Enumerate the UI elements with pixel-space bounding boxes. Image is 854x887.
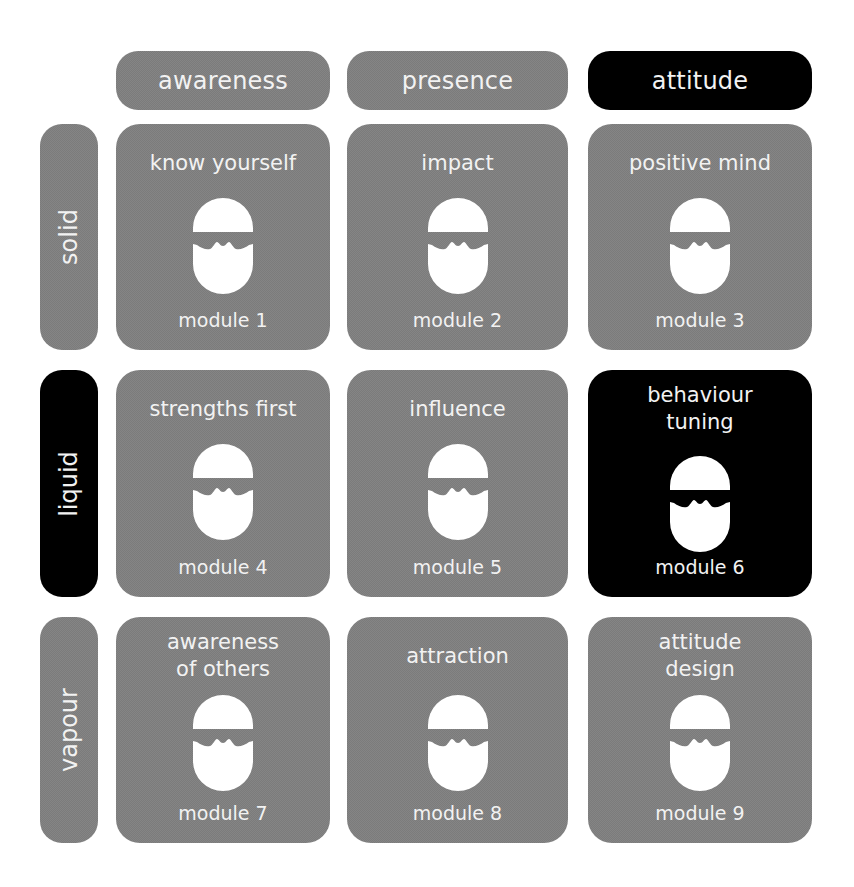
sunglasses-face-icon [670,695,730,791]
sunglasses-face-icon [670,198,730,294]
row-header-label: vapour [55,688,83,772]
row-header-label: liquid [55,451,83,517]
sunglasses-face-icon [428,198,488,294]
column-header-label: awareness [158,67,288,95]
sunglasses-face-icon [193,695,253,791]
row-header-solid: solid [40,124,98,350]
module-card-5[interactable]: influence module 5 [347,370,568,597]
module-card-8[interactable]: attraction module 8 [347,617,568,843]
module-title: strengths first [116,396,330,423]
module-label: module 8 [347,801,568,825]
column-header-label: presence [402,67,513,95]
module-label: module 6 [588,555,812,579]
module-title: influence [347,396,568,423]
module-title: behaviour tuning [588,382,812,436]
sunglasses-face-icon [193,198,253,294]
module-title: awareness of others [116,629,330,683]
sunglasses-face-icon [428,444,488,540]
module-card-7[interactable]: awareness of others module 7 [116,617,330,843]
module-title: attitude design [588,629,812,683]
module-card-6[interactable]: behaviour tuning module 6 [588,370,812,597]
module-label: module 2 [347,308,568,332]
module-label: module 3 [588,308,812,332]
module-label: module 7 [116,801,330,825]
module-title: attraction [347,643,568,670]
sunglasses-face-icon [670,456,730,552]
column-header-attitude: attitude [588,51,812,110]
module-card-1[interactable]: know yourself module 1 [116,124,330,350]
row-header-vapour: vapour [40,617,98,843]
module-title: impact [347,150,568,177]
module-label: module 4 [116,555,330,579]
module-label: module 9 [588,801,812,825]
module-label: module 5 [347,555,568,579]
module-card-2[interactable]: impact module 2 [347,124,568,350]
column-header-presence: presence [347,51,568,110]
module-card-9[interactable]: attitude design module 9 [588,617,812,843]
module-title: positive mind [588,150,812,177]
column-header-awareness: awareness [116,51,330,110]
column-header-label: attitude [652,67,748,95]
module-label: module 1 [116,308,330,332]
sunglasses-face-icon [428,695,488,791]
module-title: know yourself [116,150,330,177]
row-header-label: solid [55,209,83,265]
module-card-3[interactable]: positive mind module 3 [588,124,812,350]
sunglasses-face-icon [193,444,253,540]
row-header-liquid: liquid [40,370,98,597]
module-card-4[interactable]: strengths first module 4 [116,370,330,597]
